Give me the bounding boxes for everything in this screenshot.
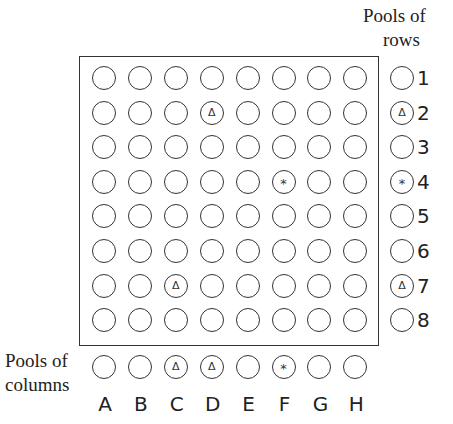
row-pool-2: Δ — [390, 101, 414, 125]
well-A3 — [92, 135, 116, 159]
well-F1 — [272, 66, 296, 90]
well-B1 — [128, 66, 152, 90]
well-A4 — [92, 170, 116, 194]
well-F2 — [272, 101, 296, 125]
well-A7 — [92, 274, 116, 298]
row-pool-label: 8 — [417, 309, 430, 331]
well-D5 — [200, 204, 224, 228]
column-pool-label: D — [203, 393, 223, 415]
row-pool-label: 4 — [417, 171, 430, 193]
well-H7 — [343, 274, 367, 298]
pools-of-columns-line2: columns — [5, 374, 69, 396]
well-F8 — [272, 308, 296, 332]
row-pool-label: 7 — [417, 275, 430, 297]
well-C2 — [164, 101, 188, 125]
well-H2 — [343, 101, 367, 125]
well-B7 — [128, 274, 152, 298]
well-E6 — [236, 239, 260, 263]
asterisk-icon: * — [280, 362, 287, 375]
triangle-icon: Δ — [172, 361, 180, 372]
column-pool-label: A — [95, 393, 115, 415]
well-D3 — [200, 135, 224, 159]
column-pool-E — [236, 355, 260, 379]
well-F4: * — [272, 170, 296, 194]
column-pool-label: G — [310, 393, 330, 415]
well-B6 — [128, 239, 152, 263]
triangle-icon: Δ — [208, 107, 216, 118]
column-pool-F: * — [272, 355, 296, 379]
well-F6 — [272, 239, 296, 263]
well-D2: Δ — [200, 101, 224, 125]
well-C8 — [164, 308, 188, 332]
row-pool-5 — [390, 204, 414, 228]
well-C7: Δ — [164, 274, 188, 298]
row-pool-3 — [390, 135, 414, 159]
well-D4 — [200, 170, 224, 194]
column-pool-A — [92, 355, 116, 379]
column-pool-label: F — [275, 393, 295, 415]
well-A6 — [92, 239, 116, 263]
well-G7 — [307, 274, 331, 298]
triangle-icon: Δ — [398, 280, 406, 291]
well-G2 — [307, 101, 331, 125]
row-pool-7: Δ — [390, 274, 414, 298]
well-B8 — [128, 308, 152, 332]
well-H4 — [343, 170, 367, 194]
asterisk-icon: * — [399, 177, 406, 190]
well-C1 — [164, 66, 188, 90]
well-E5 — [236, 204, 260, 228]
well-C4 — [164, 170, 188, 194]
triangle-icon: Δ — [172, 280, 180, 291]
triangle-icon: Δ — [398, 107, 406, 118]
asterisk-icon: * — [280, 177, 287, 190]
well-C6 — [164, 239, 188, 263]
triangle-icon: Δ — [208, 361, 216, 372]
well-D6 — [200, 239, 224, 263]
row-pool-label: 1 — [417, 67, 430, 89]
well-E2 — [236, 101, 260, 125]
row-pool-6 — [390, 239, 414, 263]
column-pool-H — [343, 355, 367, 379]
well-E4 — [236, 170, 260, 194]
row-pool-8 — [390, 308, 414, 332]
pools-of-columns-line1: Pools of — [5, 350, 68, 372]
well-A1 — [92, 66, 116, 90]
well-F5 — [272, 204, 296, 228]
column-pool-C: Δ — [164, 355, 188, 379]
row-pool-label: 3 — [417, 136, 430, 158]
column-pool-label: H — [346, 393, 366, 415]
pools-of-rows-line1: Pools of — [363, 5, 426, 27]
column-pool-label: E — [239, 393, 259, 415]
column-pool-B — [128, 355, 152, 379]
column-pool-label: B — [131, 393, 151, 415]
plate-frame — [79, 56, 379, 346]
well-E8 — [236, 308, 260, 332]
well-D7 — [200, 274, 224, 298]
well-A2 — [92, 101, 116, 125]
well-D1 — [200, 66, 224, 90]
well-F3 — [272, 135, 296, 159]
row-pool-label: 2 — [417, 102, 430, 124]
pools-of-rows-line2: rows — [383, 29, 420, 51]
column-pool-G — [307, 355, 331, 379]
well-A8 — [92, 308, 116, 332]
column-pool-D: Δ — [200, 355, 224, 379]
well-E1 — [236, 66, 260, 90]
column-pool-label: C — [167, 393, 187, 415]
well-C3 — [164, 135, 188, 159]
row-pool-label: 6 — [417, 240, 430, 262]
row-pool-label: 5 — [417, 205, 430, 227]
well-B4 — [128, 170, 152, 194]
well-B2 — [128, 101, 152, 125]
well-E7 — [236, 274, 260, 298]
well-D8 — [200, 308, 224, 332]
row-pool-4: * — [390, 170, 414, 194]
row-pool-1 — [390, 66, 414, 90]
well-B3 — [128, 135, 152, 159]
well-E3 — [236, 135, 260, 159]
well-F7 — [272, 274, 296, 298]
